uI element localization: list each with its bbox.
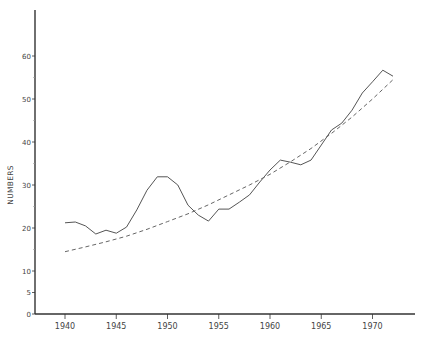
y-axis-label: NUMBERS [6,165,15,205]
series-group [65,70,393,252]
x-tick-label: 1955 [209,322,229,331]
y-axis-ticks: 05102030405060 [22,53,35,319]
line-chart: 05102030405060 1940194519501955196019651… [0,0,425,339]
y-tick-label: 5 [27,289,31,297]
y-tick-label: 50 [22,96,31,104]
trend-line [65,80,393,252]
y-tick-label: 30 [22,182,31,190]
y-tick-label: 20 [22,225,31,233]
y-tick-label: 40 [22,139,31,147]
x-tick-label: 1950 [157,322,177,331]
axes [35,10,415,314]
x-tick-label: 1965 [311,322,331,331]
x-tick-label: 1945 [106,322,126,331]
x-tick-label: 1970 [362,322,382,331]
x-tick-label: 1960 [260,322,280,331]
x-axis-ticks: 1940194519501955196019651970 [55,314,383,331]
chart-canvas: 05102030405060 1940194519501955196019651… [0,0,425,339]
y-tick-label: 0 [27,311,31,319]
y-tick-label: 60 [22,53,31,61]
observed-line [65,70,393,234]
x-tick-label: 1940 [55,322,75,331]
y-tick-label: 10 [22,268,31,276]
